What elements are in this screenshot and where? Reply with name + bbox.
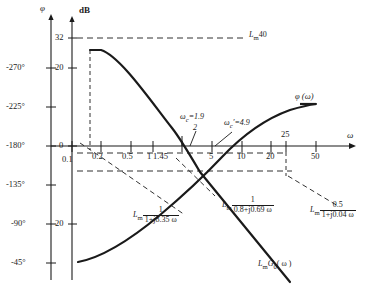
freq-tick-0-5: 0.5 (122, 152, 133, 161)
magnitude-axis-name: dB (79, 6, 90, 15)
right-term-fraction: 0.51+j0.04 ω (320, 201, 356, 219)
phase-curve (78, 104, 316, 262)
lag-term-label: Lm11+j8.35 ω (133, 206, 179, 224)
lag-term-denominator: 1+j8.35 ω (143, 216, 179, 225)
freq-tick-10: 10 (237, 152, 246, 161)
crossover-2-leader (215, 132, 232, 146)
phase-tick-135: -135° (6, 180, 25, 189)
crossover-2-label: ωc′=4.9 (224, 119, 250, 129)
frequency-axis-arrow (349, 143, 356, 149)
magnitude-curve (90, 50, 290, 282)
mid-term-denominator: 0.8+j0.69 ω (232, 206, 274, 215)
bode-plot-figure: φ dB ω -270° -225° -180° -135° -90° -45°… (0, 0, 378, 296)
freq-tick-5: 5 (209, 152, 213, 161)
freq-tick-25: 25 (281, 130, 290, 139)
freq-tick-50: 50 (311, 152, 320, 161)
phase-tick-180: -180° (6, 141, 25, 150)
freq-tick-0-1: 0.1 (62, 155, 73, 164)
lm40-value: 40 (259, 30, 267, 39)
phase-curve-label: φ (ω) (295, 92, 314, 101)
lag-term-fraction: 11+j8.35 ω (143, 206, 179, 224)
crossover-1-value: =1.9 (189, 112, 204, 121)
frequency-axis-name: ω (347, 131, 353, 140)
corner-2-label: 2 (193, 124, 197, 132)
gain-curve-label: LmG0( ω ) (258, 260, 291, 270)
right-term-denominator: 1+j0.04 ω (320, 211, 356, 220)
magnitude-axis-arrow (69, 16, 74, 22)
db-tick-0: 0 (59, 141, 63, 150)
db-tick-32: 32 (55, 33, 64, 42)
freq-tick-1: 1 (147, 152, 151, 161)
db-tick-20-lower: 20 (55, 219, 64, 228)
db-tick-20-upper: 20 (55, 63, 64, 72)
crossover-2-value: =4.9 (234, 118, 249, 127)
freq-tick-0-2: 0.2 (92, 152, 103, 161)
phase-axis-arrow (48, 14, 53, 20)
phase-tick-45: -45° (11, 258, 26, 267)
plot-canvas (0, 0, 378, 296)
gain-curve-arg: ( ω ) (277, 259, 292, 268)
crossover-1-leader (190, 131, 196, 146)
phase-tick-225: -225° (6, 102, 25, 111)
phase-tick-90: -90° (11, 219, 26, 228)
lm40-label: Lm40 (249, 31, 267, 41)
right-term-label: Lm0.51+j0.04 ω (310, 201, 356, 219)
phase-tick-270: -270° (6, 63, 25, 72)
crossover-1-label: ωc=1.9 (180, 113, 204, 123)
mid-term-label: Lm10.8+j0.69 ω (222, 196, 274, 214)
phase-axis-name: φ (40, 4, 45, 13)
freq-tick-1-45: 1.45 (153, 152, 168, 161)
freq-tick-20: 20 (266, 152, 275, 161)
mid-term-fraction: 10.8+j0.69 ω (232, 196, 274, 214)
